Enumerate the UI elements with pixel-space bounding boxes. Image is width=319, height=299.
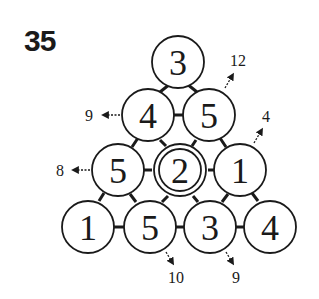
arrow-down-right-icon (226, 252, 232, 262)
cell-value: 5 (200, 96, 218, 136)
cell-value: 3 (201, 208, 219, 248)
cell-value: 5 (141, 208, 159, 248)
pyramid-puzzle: 3 4 5 5 2 1 1 5 3 4 9 8 12 4 10 9 (0, 0, 319, 299)
cell-value: 1 (231, 151, 249, 191)
clue-right-row2: 4 (262, 108, 270, 125)
clue-left-row3: 8 (56, 162, 64, 179)
cell-value: 3 (169, 43, 187, 83)
cell-value: 2 (171, 151, 189, 191)
arrow-up-right-icon (254, 131, 261, 143)
arrow-up-right-icon (225, 76, 232, 88)
cell-value: 5 (109, 151, 127, 191)
cell-value: 4 (261, 208, 279, 248)
clue-bottom-col2: 9 (232, 269, 240, 286)
cell-value: 1 (79, 208, 97, 248)
arrow-down-right-icon (166, 252, 172, 262)
clue-bottom-col1: 10 (168, 269, 184, 286)
clue-right-row1: 12 (230, 52, 246, 69)
cell-value: 4 (139, 96, 157, 136)
clue-left-row2: 9 (85, 107, 93, 124)
